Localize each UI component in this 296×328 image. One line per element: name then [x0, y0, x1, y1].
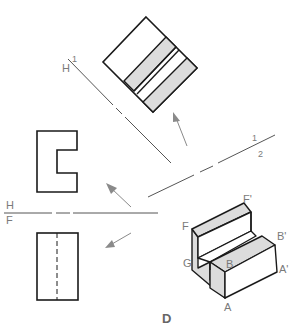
label-f-prime: F' — [243, 193, 252, 205]
fold-label-f: F — [6, 214, 13, 226]
isometric-object — [192, 203, 277, 298]
fold-label-1: 1 — [252, 133, 257, 143]
label-g: G — [183, 257, 192, 269]
label-a: A — [224, 301, 232, 313]
arrow-up-left-icon — [106, 183, 131, 207]
top-view — [37, 131, 77, 192]
fold-label-h: H — [6, 199, 14, 211]
label-f: F — [182, 220, 189, 232]
descriptive-geometry-diagram: H 1 1 2 H F — [0, 0, 296, 328]
label-a-prime: A' — [279, 263, 288, 275]
arrow-up-icon — [173, 112, 187, 146]
projection-arrows — [105, 112, 187, 248]
fold-label-2: 2 — [258, 149, 263, 159]
arrow-down-left-icon — [105, 233, 131, 248]
fold-label-1: 1 — [72, 54, 77, 64]
fold-line-h-f: H F — [4, 199, 158, 226]
fold-label-h: H — [62, 62, 70, 74]
front-view — [37, 233, 78, 300]
auxiliary-view-1 — [103, 17, 197, 112]
figure-caption: D — [162, 311, 171, 326]
label-b-prime: B' — [277, 230, 286, 242]
fold-line-1-2: 1 2 — [148, 133, 275, 197]
label-b: B — [226, 258, 233, 270]
